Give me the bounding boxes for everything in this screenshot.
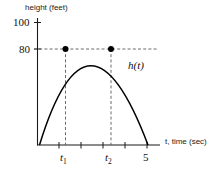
- y-axis-title: height (feet): [25, 3, 68, 12]
- figure-canvas: height (feet) t, time (sec) 100 80 t1 t2…: [0, 0, 208, 169]
- x-tick-label-5: 5: [143, 151, 149, 163]
- parabola-figure: height (feet) t, time (sec) 100 80 t1 t2…: [0, 0, 208, 169]
- y-tick-label-80: 80: [19, 43, 31, 55]
- y-tick-label-100: 100: [13, 16, 30, 28]
- marked-point-t2: [108, 46, 114, 52]
- x-tick-label-t2: t2: [105, 151, 112, 166]
- height-curve: [40, 66, 149, 145]
- x-tick-label-t1: t1: [60, 151, 67, 166]
- marked-point-t1: [63, 46, 69, 52]
- x-tick-label-t2-sub: 2: [108, 157, 112, 166]
- x-tick-label-t1-sub: 1: [63, 157, 67, 166]
- x-axis-title: t, time (sec): [165, 137, 207, 146]
- curve-label: h(t): [128, 59, 144, 72]
